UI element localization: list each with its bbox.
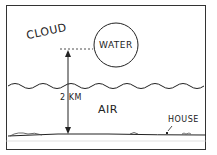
arrow-head-up-icon [65,50,71,57]
air-label: AIR [98,103,118,116]
ground-bump [130,133,138,135]
distance-label: 2 KM [60,93,82,102]
cloud-base-wavy-line [8,84,204,89]
diagram-drawing [0,0,217,155]
house-marker-icon [166,132,168,134]
arrow-head-down-icon [65,127,71,134]
water-label: WATER [99,40,133,50]
grass-tufts [182,133,191,134]
house-pointer-line [168,126,172,131]
house-label: HOUSE [168,115,199,124]
